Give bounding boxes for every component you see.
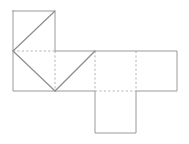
net-diagram-canvas	[0, 0, 189, 144]
face-right-inner-square	[95, 51, 136, 91]
face-bottom-square	[95, 91, 136, 133]
net-diagram-figure	[0, 0, 189, 144]
face-right-outer-square	[136, 51, 177, 91]
